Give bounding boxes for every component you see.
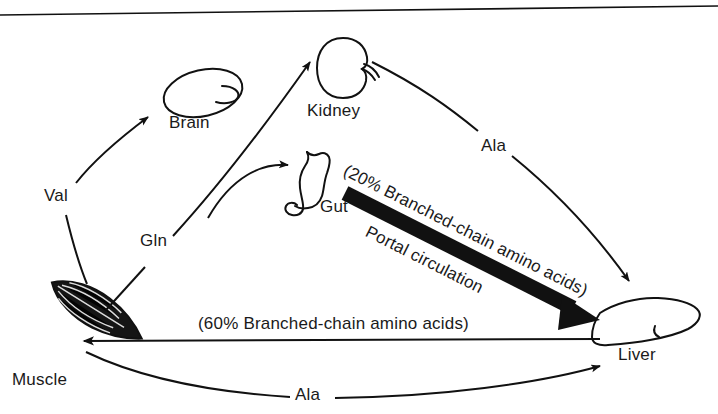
organ-label-gut: Gut: [320, 197, 348, 217]
organ-label-muscle: Muscle: [12, 370, 67, 390]
top-rule: [0, 6, 718, 15]
arrow-gut-to-liver-portal: [345, 193, 600, 330]
flow-label-systemic-percent: (60% Branched-chain amino acids): [198, 314, 469, 334]
organ-label-brain: Brain: [169, 113, 210, 133]
arrow-muscle-to-liver: [86, 352, 600, 398]
arrow-gln-branch-to-gut: [208, 165, 288, 218]
kidney-organ-icon: [317, 38, 379, 98]
liver-organ-icon: [592, 298, 700, 345]
diagram-canvas: [0, 0, 718, 414]
flow-label-gln: Gln: [140, 231, 167, 251]
arrow-muscle-to-kidney: [106, 62, 310, 310]
flow-label-ala-kidney-liver: Ala: [481, 136, 506, 156]
arrow-muscle-to-brain: [66, 117, 148, 284]
organ-label-liver: Liver: [618, 345, 656, 365]
flow-label-ala-muscle-liver: Ala: [295, 385, 320, 405]
flow-label-val: Val: [44, 186, 68, 206]
arrow-liver-to-muscle: [84, 339, 600, 341]
metabolic-flow-diagram: Brain Kidney Gut Liver Muscle Val Gln Al…: [0, 0, 718, 414]
organ-label-kidney: Kidney: [307, 101, 360, 121]
